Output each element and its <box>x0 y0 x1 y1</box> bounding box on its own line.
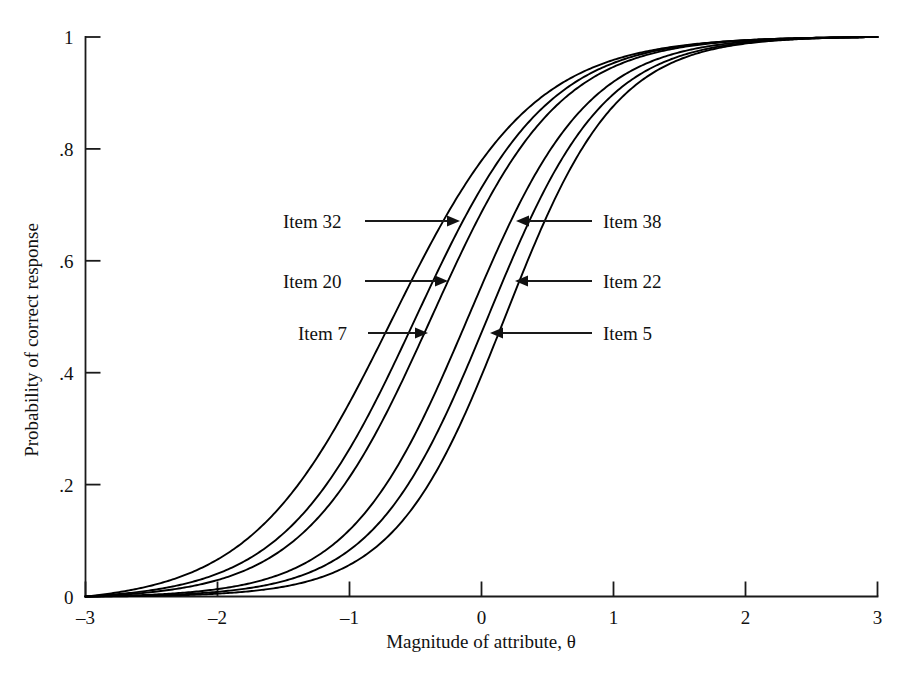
annotation-label: Item 32 <box>283 211 342 232</box>
x-tick-label: 0 <box>477 607 487 628</box>
annotation-arrowhead-icon <box>516 216 529 227</box>
curve-item-20 <box>86 37 878 597</box>
x-tick-label: –2 <box>207 607 227 628</box>
annotation-item-38: Item 38 <box>516 211 662 232</box>
curve-group <box>86 37 878 597</box>
annotation-item-7: Item 7 <box>298 323 428 344</box>
annotation-item-5: Item 5 <box>490 323 652 344</box>
y-tick-label: .8 <box>59 139 73 160</box>
annotation-label: Item 5 <box>603 323 652 344</box>
curve-item-5 <box>86 37 878 597</box>
annotation-item-32: Item 32 <box>283 211 460 232</box>
y-axis-title: Probability of correct response <box>21 223 42 457</box>
y-tick-label: 0 <box>64 587 74 608</box>
x-axis-title: Magnitude of attribute, θ <box>386 631 576 652</box>
item-characteristic-curve-figure: 0.2.4.6.81 –3–2–10123 Item 32Item 20Item… <box>0 0 910 679</box>
y-tick-label: .2 <box>59 475 73 496</box>
y-axis-tick-labels: 0.2.4.6.81 <box>59 27 74 608</box>
y-tick-label: 1 <box>64 27 74 48</box>
annotation-item-20: Item 20 <box>283 271 448 292</box>
curve-item-7 <box>86 37 878 597</box>
x-tick-label: 1 <box>609 607 619 628</box>
annotation-arrowhead-icon <box>447 216 460 227</box>
x-tick-label: –1 <box>339 607 359 628</box>
annotation-label: Item 7 <box>298 323 347 344</box>
curve-item-32 <box>86 37 878 597</box>
x-axis-tick-labels: –3–2–10123 <box>75 607 882 628</box>
x-tick-label: 3 <box>873 607 883 628</box>
curve-item-38 <box>86 37 878 597</box>
annotation-label: Item 20 <box>283 271 342 292</box>
y-axis-ticks <box>86 37 101 597</box>
annotation-item-22: Item 22 <box>515 271 662 292</box>
y-tick-label: .4 <box>59 363 74 384</box>
annotation-label: Item 22 <box>603 271 662 292</box>
x-tick-label: –3 <box>75 607 95 628</box>
curve-item-22 <box>86 37 878 597</box>
axis-lines <box>86 37 878 597</box>
x-tick-label: 2 <box>741 607 751 628</box>
y-tick-label: .6 <box>59 251 73 272</box>
chart-canvas: 0.2.4.6.81 –3–2–10123 Item 32Item 20Item… <box>0 0 910 679</box>
annotation-label: Item 38 <box>603 211 662 232</box>
